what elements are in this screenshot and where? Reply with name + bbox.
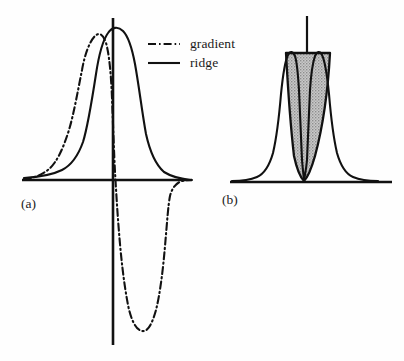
panel-label-a: (a) <box>21 196 36 212</box>
legend-entry-ridge: ridge <box>147 53 235 72</box>
panel-b-ridge-curve <box>232 52 378 181</box>
legend-label-gradient: gradient <box>190 36 235 52</box>
panel-a-gradient-curve <box>24 34 192 331</box>
figure-panel-container: gradient ridge (a) (b) <box>0 0 404 361</box>
dash-dot-line-icon <box>147 38 181 50</box>
legend-label-ridge: ridge <box>190 55 218 71</box>
panel-b-shaded-wedge <box>286 53 330 181</box>
legend: gradient ridge <box>147 34 235 72</box>
solid-line-icon <box>147 57 181 69</box>
panel-label-b: (b) <box>222 192 238 208</box>
legend-entry-gradient: gradient <box>147 34 235 53</box>
